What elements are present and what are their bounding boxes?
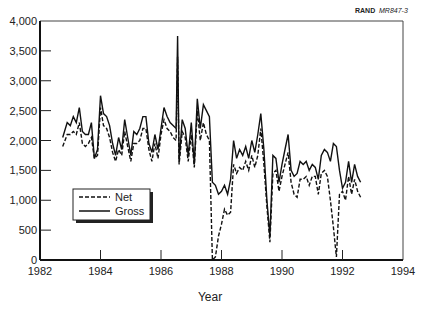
y-tick-label: 4,000 xyxy=(9,15,37,27)
x-ticks: 1982198419861988199019921994 xyxy=(28,250,415,277)
y-tick-label: 1,000 xyxy=(9,194,37,206)
y-tick-label: 1,500 xyxy=(9,164,37,176)
y-ticks: 05001,0001,5002,0002,5003,0003,5004,000 xyxy=(9,15,51,266)
x-tick-label: 1994 xyxy=(391,265,415,277)
x-tick-label: 1990 xyxy=(270,265,294,277)
x-tick-label: 1982 xyxy=(28,265,52,277)
data-lines xyxy=(63,36,361,260)
y-tick-label: 500 xyxy=(19,224,37,236)
chart: RAND MR847-3 05001,0001,5002,0002,5003,0… xyxy=(0,0,423,311)
y-tick-label: 2,000 xyxy=(9,135,37,147)
x-tick-label: 1986 xyxy=(149,265,173,277)
legend: Net Gross xyxy=(73,189,153,223)
x-axis-title: Year xyxy=(198,290,222,304)
y-tick-label: 3,500 xyxy=(9,45,37,57)
y-tick-label: 3,000 xyxy=(9,75,37,87)
legend-gross-label: Gross xyxy=(115,205,145,217)
x-tick-label: 1992 xyxy=(330,265,354,277)
x-tick-label: 1984 xyxy=(88,265,112,277)
rand-label: RAND xyxy=(355,7,375,14)
legend-net-label: Net xyxy=(115,191,132,203)
figure-id-label: MR847-3 xyxy=(379,7,408,14)
y-tick-label: 2,500 xyxy=(9,105,37,117)
x-tick-label: 1988 xyxy=(209,265,233,277)
